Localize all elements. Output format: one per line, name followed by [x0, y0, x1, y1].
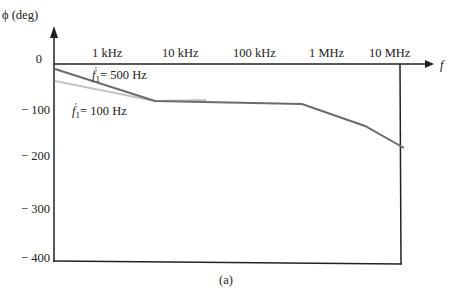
annotation-100hz: f1′ = 100 Hz [72, 101, 127, 120]
x-tick-100khz: 100 kHz [233, 46, 276, 60]
y-tick-0: 0 [36, 52, 42, 66]
y-tick-200: − 200 [21, 149, 50, 163]
y-tick-400: − 400 [21, 251, 50, 265]
x-axis-arrow-icon [425, 60, 434, 68]
x-tick-1khz: 1 kHz [92, 46, 123, 60]
x-axis-label: f [440, 58, 445, 72]
y-axis-label: ϕ (deg) [2, 8, 38, 22]
y-tick-300: − 300 [21, 202, 50, 216]
series-100hz [55, 81, 206, 101]
x-tick-10mhz: 10 MHz [369, 46, 411, 60]
y-axis-arrow-icon [50, 26, 58, 38]
bottom-border [53, 261, 402, 264]
figure-caption: (a) [219, 273, 233, 287]
phase-plot: ϕ (deg) f 1 kHz 10 kHz 100 kHz 1 MHz 10 … [0, 0, 454, 302]
annotation-500hz: f1′ = 500 Hz [92, 65, 147, 84]
right-border [400, 64, 401, 264]
y-tick-100: − 100 [21, 103, 50, 117]
x-tick-1mhz: 1 MHz [309, 46, 345, 60]
x-tick-10khz: 10 kHz [162, 46, 199, 60]
